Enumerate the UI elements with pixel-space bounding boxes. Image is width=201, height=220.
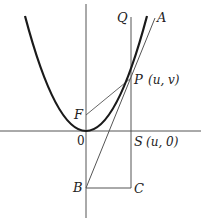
- label-P: P: [133, 72, 143, 87]
- label-S-coord: (u, 0): [146, 135, 179, 149]
- label-F: F: [73, 107, 84, 122]
- label-A: A: [156, 10, 166, 25]
- label-Q: Q: [117, 10, 128, 25]
- label-S: S: [134, 134, 143, 149]
- label-C: C: [134, 181, 144, 196]
- tangent-line-BA: [86, 18, 155, 188]
- label-origin: 0: [77, 134, 85, 148]
- label-P-coord: (u, v): [148, 73, 180, 87]
- label-B: B: [72, 180, 83, 195]
- parabola-diagram: Q A P (u, v) F 0 S (u, 0) B C: [0, 0, 201, 220]
